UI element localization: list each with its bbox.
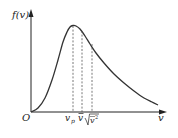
svg-text:v: v	[65, 113, 70, 123]
vmean-label: v	[78, 113, 84, 123]
vp-label: v p	[65, 113, 75, 125]
x-axis-label: v	[158, 112, 164, 123]
y-axis-arrow-icon	[29, 9, 34, 17]
y-axis-label: f(v)	[11, 9, 29, 20]
svg-text:p: p	[71, 117, 75, 125]
maxwell-distribution-chart: f(v) O v v p v v 2	[0, 0, 178, 138]
origin-label: O	[22, 112, 30, 123]
distribution-curve	[31, 25, 158, 112]
svg-text:v: v	[78, 113, 83, 123]
svg-text:2: 2	[95, 114, 98, 120]
vrms-label: v 2	[85, 114, 99, 125]
